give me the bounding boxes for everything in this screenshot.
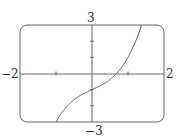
x-min-label: −2	[1, 68, 19, 80]
x-max-label: 2	[166, 68, 174, 80]
y-max-label: 3	[87, 12, 95, 24]
y-min-label: −3	[85, 125, 103, 137]
